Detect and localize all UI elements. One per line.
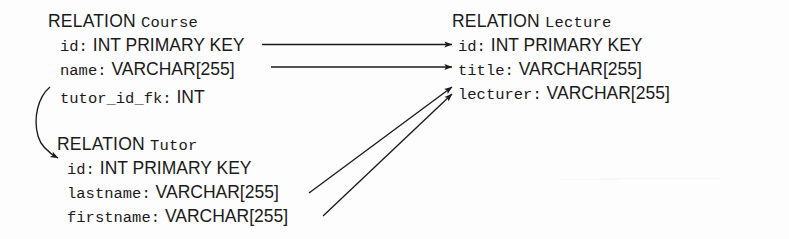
field-name: name: [60,62,107,80]
relation-lecture: RELATION Lecture id: INT PRIMARY KEY tit… [452,10,670,106]
field-name: id: [67,161,95,179]
field-type: INT [177,87,205,107]
field-type: INT PRIMARY KEY [100,158,252,178]
field-type: VARCHAR[255] [547,83,670,103]
field-name: tutor_id_fk: [60,90,172,108]
relation-tutor-header: RELATION Tutor [57,133,288,157]
field-name: lastname: [67,185,151,203]
relation-tutor: RELATION Tutor id: INT PRIMARY KEY lastn… [57,133,288,229]
field-name: id: [60,38,88,56]
field-course-id: id: INT PRIMARY KEY [60,34,245,58]
relation-tutor-name: Tutor [150,137,198,155]
field-type: VARCHAR[255] [519,59,642,79]
relation-course: RELATION Course id: INT PRIMARY KEY name… [48,10,245,110]
field-type: VARCHAR[255] [111,59,234,79]
field-lecture-lecturer: lecturer: VARCHAR[255] [458,82,670,106]
relation-lecture-header: RELATION Lecture [452,10,670,34]
field-lecture-title: title: VARCHAR[255] [458,58,670,82]
field-name: firstname: [67,209,160,227]
arrow-tutor-firstname-to-lecture-lecturer [323,94,452,216]
field-name: id: [458,38,486,56]
field-lecture-id: id: INT PRIMARY KEY [458,34,670,58]
field-tutor-lastname: lastname: VARCHAR[255] [67,181,288,205]
field-type: INT PRIMARY KEY [491,35,643,55]
field-name: lecturer: [458,86,542,104]
relation-course-header: RELATION Course [48,10,245,34]
field-type: VARCHAR[255] [156,182,279,202]
field-course-tutor-id-fk: tutor_id_fk: INT [60,86,245,110]
field-type: INT PRIMARY KEY [93,35,245,55]
field-name: title: [458,62,514,80]
field-course-name: name: VARCHAR[255] [60,58,245,82]
relation-keyword: RELATION [452,11,540,31]
field-tutor-id: id: INT PRIMARY KEY [67,157,288,181]
relation-keyword: RELATION [48,11,136,31]
scan-artifact [560,179,620,180]
field-tutor-firstname: firstname: VARCHAR[255] [67,205,288,229]
arrow-tutor-lastname-to-lecture-lecturer [309,87,452,193]
relation-keyword: RELATION [57,134,145,154]
relation-course-name: Course [141,14,198,32]
er-mapping-diagram: RELATION Course id: INT PRIMARY KEY name… [0,0,789,239]
field-type: VARCHAR[255] [165,206,288,226]
relation-lecture-name: Lecture [545,14,612,32]
